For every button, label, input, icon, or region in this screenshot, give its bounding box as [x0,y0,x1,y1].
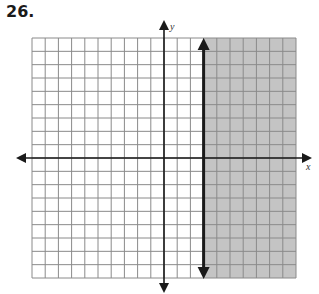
coordinate-graph: xy [0,0,319,294]
y-axis-down-arrow-icon [159,283,169,293]
x-axis-label: x [305,161,311,172]
x-axis-left-arrow-icon [16,153,26,163]
y-axis-up-arrow-icon [159,20,169,30]
y-axis-label: y [169,21,175,32]
